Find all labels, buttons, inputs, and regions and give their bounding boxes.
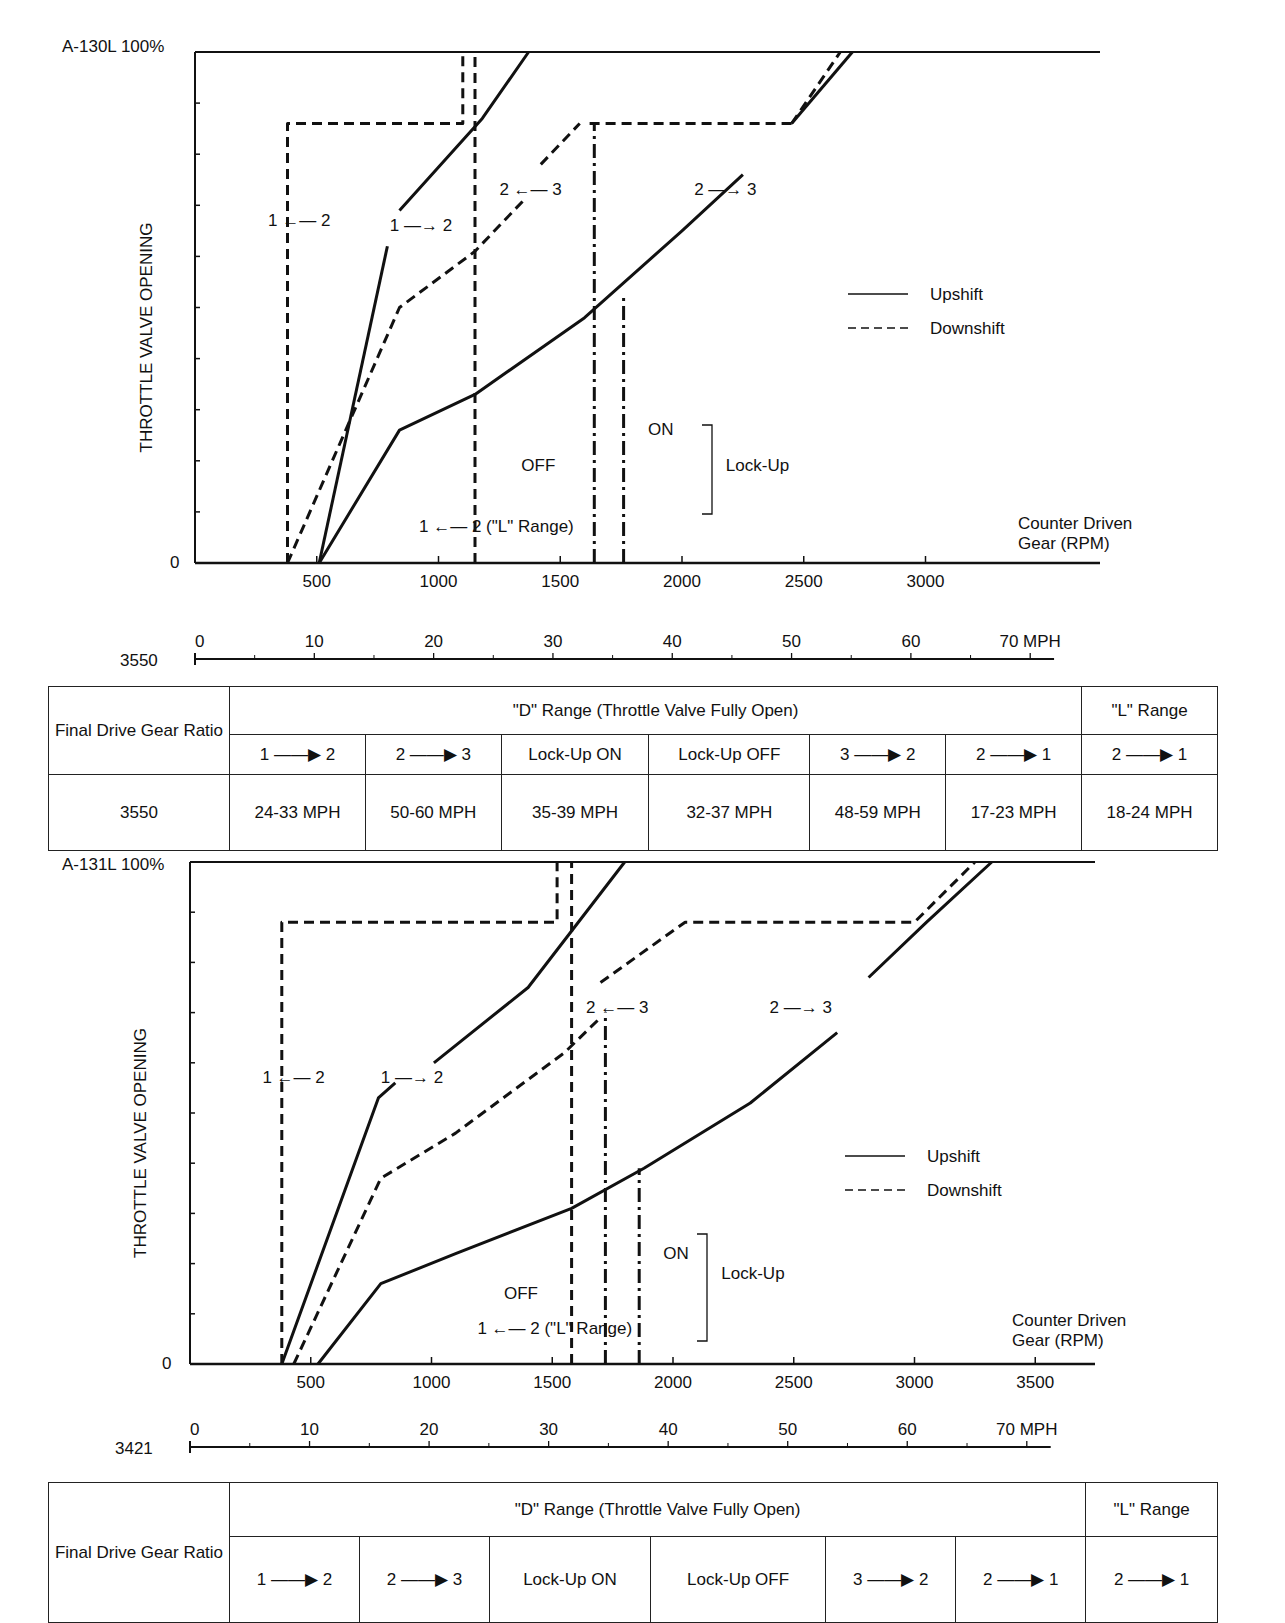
- d-range-header: "D" Range (Throttle Valve Fully Open): [230, 687, 1082, 735]
- x-tick-label: 1000: [413, 1373, 451, 1392]
- col-lockup-off: Lock-Up OFF: [650, 1537, 825, 1623]
- table-row: 3550 24-33 MPH 50-60 MPH 35-39 MPH 32-37…: [49, 775, 1218, 851]
- x-tick-label: 3000: [896, 1373, 934, 1392]
- chart-title: A-130L 100%: [62, 37, 164, 56]
- annotation: 2 —→ 3: [770, 998, 832, 1017]
- lockup-bracket: [697, 1234, 707, 1341]
- value-cell: 48-59 MPH: [810, 775, 946, 851]
- col-lockup-off: Lock-Up OFF: [649, 735, 810, 775]
- annotation: 1 —→ 2: [381, 1068, 443, 1087]
- series-line: [288, 200, 524, 563]
- mph-tick-label: 10: [305, 632, 324, 651]
- annotation: ON: [663, 1244, 689, 1263]
- value-cell: 50-60 MPH: [365, 775, 501, 851]
- mph-tick-label: 50: [782, 632, 801, 651]
- col-lockup-on: Lock-Up ON: [501, 735, 649, 775]
- y-axis-label: THROTTLE VALVE OPENING: [137, 223, 156, 453]
- value-cell: 24-33 MPH: [230, 775, 366, 851]
- final-drive-ratio-header: Final Drive Gear Ratio: [49, 1483, 230, 1623]
- mph-tick-label: 40: [659, 1420, 678, 1439]
- final-drive-ratio-header: Final Drive Gear Ratio: [49, 687, 230, 775]
- series-line: [541, 124, 580, 165]
- mph-tick-label: 30: [543, 632, 562, 651]
- col-l-2-1: 2 ——▶ 1: [1086, 1537, 1218, 1623]
- annotation: OFF: [504, 1284, 538, 1303]
- x-axis-label-line1: Counter Driven: [1012, 1311, 1126, 1330]
- annotation: 1 ←— 2: [262, 1068, 324, 1087]
- legend-upshift-label: Upshift: [930, 285, 983, 304]
- mph-tick-label: 20: [420, 1420, 439, 1439]
- mph-tick-label: 30: [539, 1420, 558, 1439]
- annotation: 1 —→ 2: [390, 216, 452, 235]
- col-3-2: 3 ——▶ 2: [810, 735, 946, 775]
- mph-tick-label: 70 MPH: [999, 632, 1060, 651]
- value-cell: 17-23 MPH: [946, 775, 1082, 851]
- chart-title: A-131L 100%: [62, 855, 164, 874]
- x-tick-label: 2500: [785, 572, 823, 591]
- col-1-2: 1 ——▶ 2: [230, 1537, 360, 1623]
- a131l-chart: 500100015002000250030003500A-131L 100%0T…: [62, 855, 1126, 1458]
- x-axis-label-line2: Gear (RPM): [1012, 1331, 1104, 1350]
- shift-speed-table-a131l: Final Drive Gear Ratio "D" Range (Thrott…: [48, 1482, 1218, 1623]
- a130l-chart: 50010001500200025003000A-130L 100%0THROT…: [62, 37, 1132, 670]
- y-zero-label: 0: [162, 1354, 171, 1373]
- x-tick-label: 1500: [541, 572, 579, 591]
- mph-tick-label: 20: [424, 632, 443, 651]
- annotation: Lock-Up: [726, 456, 789, 475]
- annotation: 1 ←— 2: [268, 211, 330, 230]
- mph-scale-ratio-label: 3550: [120, 651, 158, 670]
- y-axis-label: THROTTLE VALVE OPENING: [131, 1028, 150, 1258]
- annotation: ON: [648, 420, 674, 439]
- annotation: Lock-Up: [721, 1264, 784, 1283]
- value-cell: 35-39 MPH: [501, 775, 649, 851]
- x-tick-label: 2000: [654, 1373, 692, 1392]
- col-2-3: 2 ——▶ 3: [365, 735, 501, 775]
- annotation: 1 ←— 2 ("L" Range): [477, 1319, 632, 1338]
- x-axis-label-line1: Counter Driven: [1018, 514, 1132, 533]
- col-2-1: 2 ——▶ 1: [956, 1537, 1086, 1623]
- mph-tick-label: 0: [195, 632, 204, 651]
- mph-tick-label: 60: [898, 1420, 917, 1439]
- x-tick-label: 1500: [533, 1373, 571, 1392]
- annotation: 2 ←— 3: [499, 180, 561, 199]
- y-zero-label: 0: [170, 553, 179, 572]
- col-1-2: 1 ——▶ 2: [230, 735, 366, 775]
- series-line: [601, 862, 975, 983]
- value-cell: 18-24 MPH: [1082, 775, 1218, 851]
- series-line: [869, 862, 992, 978]
- value-cell: 32-37 MPH: [649, 775, 810, 851]
- annotation: 2 ←— 3: [586, 998, 648, 1017]
- legend-downshift-label: Downshift: [927, 1181, 1002, 1200]
- x-tick-label: 2000: [663, 572, 701, 591]
- x-tick-label: 1000: [420, 572, 458, 591]
- series-line: [294, 1018, 601, 1364]
- mph-tick-label: 40: [663, 632, 682, 651]
- annotation: OFF: [521, 456, 555, 475]
- l-range-header: "L" Range: [1086, 1483, 1218, 1537]
- mph-tick-label: 0: [190, 1420, 199, 1439]
- col-lockup-on: Lock-Up ON: [489, 1537, 650, 1623]
- mph-tick-label: 70 MPH: [996, 1420, 1057, 1439]
- legend-upshift-label: Upshift: [927, 1147, 980, 1166]
- x-tick-label: 500: [303, 572, 331, 591]
- legend-downshift-label: Downshift: [930, 319, 1005, 338]
- annotation: 2 —→ 3: [694, 180, 756, 199]
- mph-tick-label: 10: [300, 1420, 319, 1439]
- col-2-1: 2 ——▶ 1: [946, 735, 1082, 775]
- x-axis-label-line2: Gear (RPM): [1018, 534, 1110, 553]
- lockup-bracket: [702, 425, 712, 514]
- mph-tick-label: 50: [778, 1420, 797, 1439]
- d-range-header: "D" Range (Throttle Valve Fully Open): [230, 1483, 1086, 1537]
- l-range-header: "L" Range: [1082, 687, 1218, 735]
- mph-tick-label: 60: [901, 632, 920, 651]
- series-line: [319, 246, 387, 563]
- ratio-cell: 3550: [49, 775, 230, 851]
- mph-scale-ratio-label: 3421: [115, 1439, 153, 1458]
- x-tick-label: 3500: [1016, 1373, 1054, 1392]
- x-tick-label: 3000: [907, 572, 945, 591]
- col-2-3: 2 ——▶ 3: [359, 1537, 489, 1623]
- series-line: [792, 52, 853, 124]
- series-line: [434, 862, 625, 1063]
- x-tick-label: 500: [297, 1373, 325, 1392]
- shift-speed-table-a130l: Final Drive Gear Ratio "D" Range (Thrott…: [48, 686, 1218, 851]
